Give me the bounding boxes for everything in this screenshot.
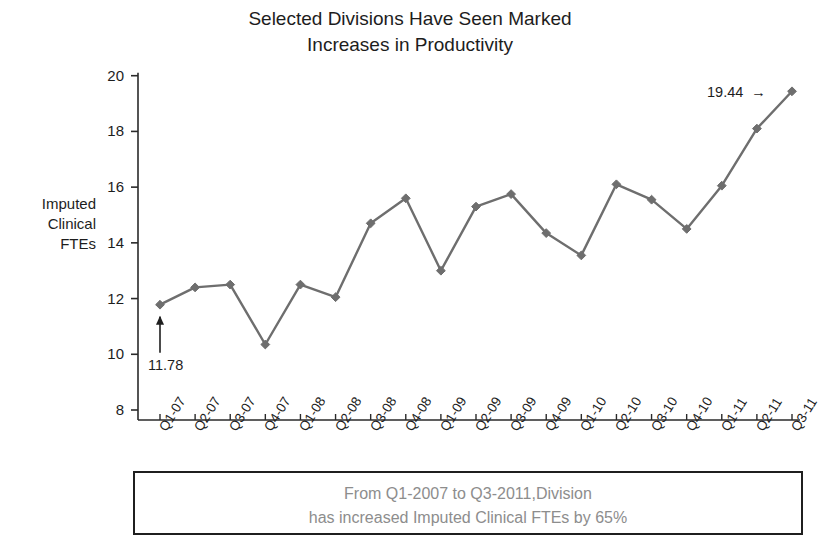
summary-caption-box: From Q1-2007 to Q3-2011,Division has inc… <box>133 471 803 535</box>
y-tick-label-18: 18 <box>90 124 124 138</box>
arrow-right-icon: → <box>751 84 766 100</box>
data-point-marker <box>437 266 446 275</box>
last-point-value-text: 19.44 <box>707 84 743 100</box>
data-series-layer <box>156 87 797 349</box>
y-tick-label-8: 8 <box>90 403 124 417</box>
summary-caption-text: From Q1-2007 to Q3-2011,Division has inc… <box>135 482 801 530</box>
data-point-marker <box>472 202 481 211</box>
first-point-value-label: 11.78 <box>148 357 183 373</box>
y-tick-label-16: 16 <box>90 180 124 194</box>
y-tick-label-14: 14 <box>90 236 124 250</box>
y-tick-label-20: 20 <box>90 69 124 83</box>
data-point-marker <box>612 180 621 189</box>
data-point-marker <box>156 300 165 309</box>
axis-layer <box>131 73 800 420</box>
last-point-value-label: 19.44→ <box>707 84 766 100</box>
annotation-arrow-layer <box>156 316 164 353</box>
y-tick-label-10: 10 <box>90 347 124 361</box>
data-point-marker <box>191 283 200 292</box>
y-tick-label-12: 12 <box>90 292 124 306</box>
data-point-marker <box>331 293 340 302</box>
